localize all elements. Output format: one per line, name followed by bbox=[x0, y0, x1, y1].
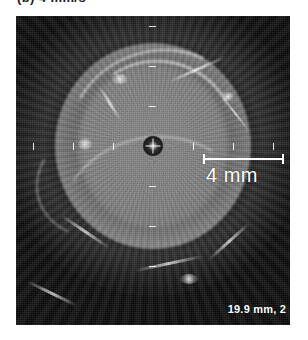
bright-streak bbox=[208, 222, 250, 260]
bright-streak bbox=[60, 214, 110, 249]
echo-blob bbox=[112, 74, 128, 84]
graticule-tick-v bbox=[149, 66, 156, 67]
echo-blob bbox=[222, 92, 234, 101]
echo-blob bbox=[180, 274, 198, 284]
specular-arc bbox=[47, 26, 271, 238]
graticule-tick-v bbox=[149, 26, 156, 27]
graticule-tick-h bbox=[33, 143, 34, 150]
graticule-tick-h bbox=[233, 143, 234, 150]
specular-arc bbox=[67, 44, 252, 222]
bright-streak bbox=[98, 86, 122, 122]
scale-bar-label: 4 mm bbox=[206, 164, 258, 187]
figure-caption: (b) 4 mm/s bbox=[17, 0, 86, 5]
graticule-tick-v bbox=[149, 266, 156, 267]
scale-bar bbox=[203, 158, 284, 160]
bright-streak bbox=[134, 255, 203, 272]
bright-streak bbox=[26, 280, 78, 307]
graticule-tick-h bbox=[73, 143, 74, 150]
echo-blob bbox=[78, 138, 92, 150]
graticule-tick-h bbox=[193, 143, 194, 150]
graticule-tick-h bbox=[113, 143, 114, 150]
graticule-tick-h bbox=[273, 143, 274, 150]
depth-readout: 19.9 mm, 2 bbox=[228, 303, 286, 315]
graticule-tick-v bbox=[149, 226, 156, 227]
graticule-tick-v bbox=[149, 186, 156, 187]
specular-arc bbox=[21, 105, 186, 255]
graticule-tick-v bbox=[149, 106, 156, 107]
transducer-center-marker bbox=[143, 135, 164, 156]
bright-streak bbox=[220, 94, 250, 131]
ultrasound-image[interactable]: 4 mm 19.9 mm, 2 bbox=[16, 16, 290, 325]
bright-streak bbox=[168, 56, 226, 84]
